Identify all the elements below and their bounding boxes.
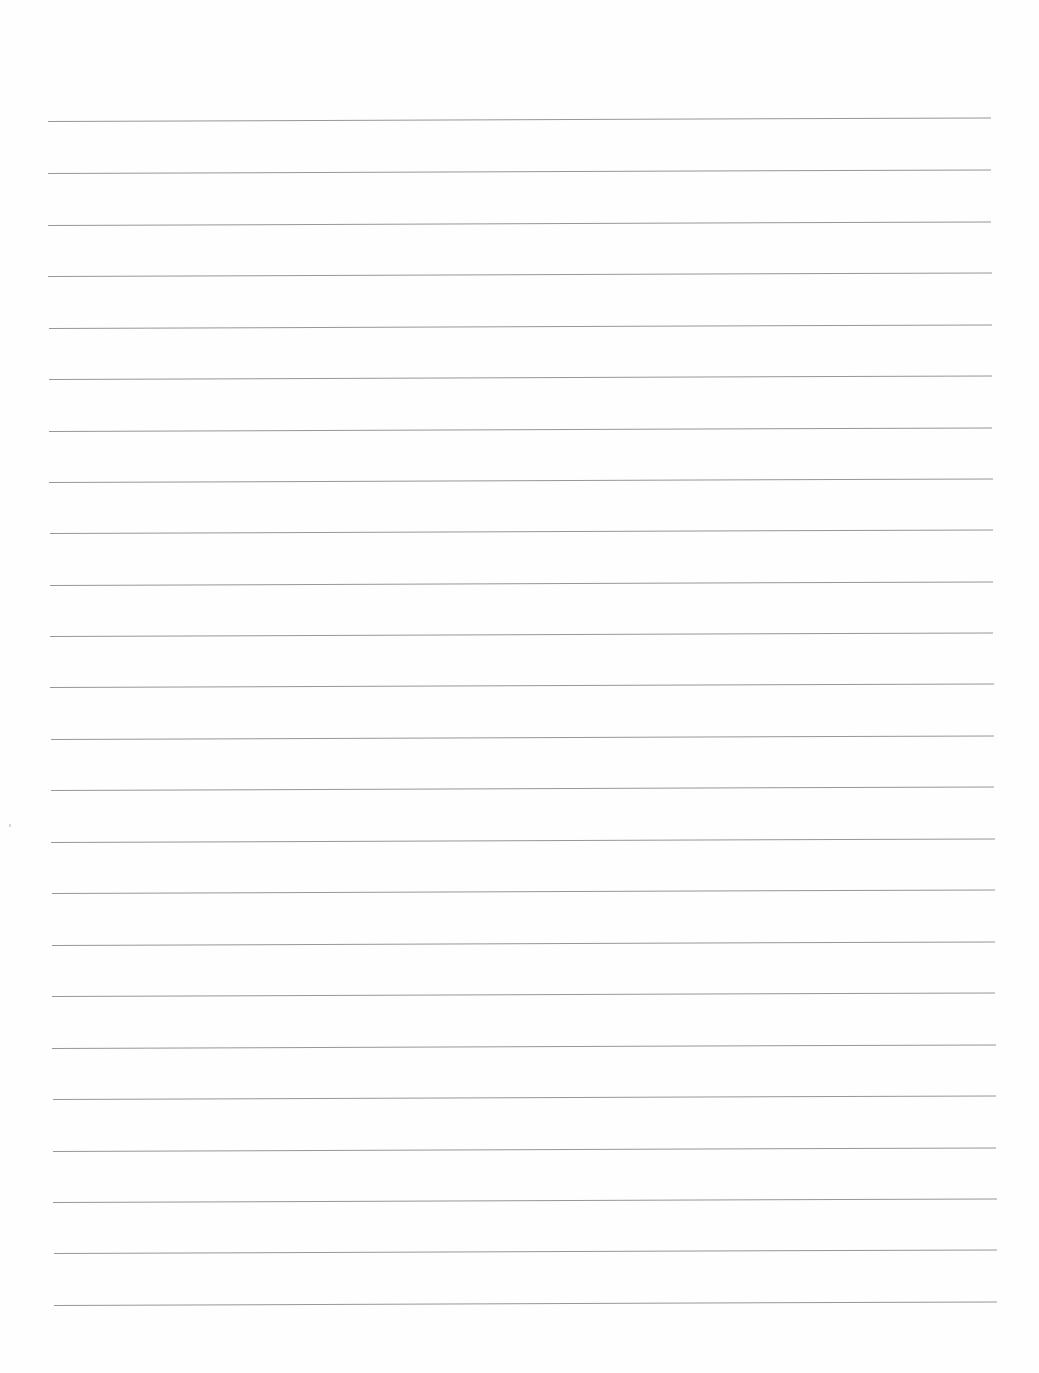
lined-paper-page — [0, 0, 1039, 1373]
ruled-line — [51, 735, 994, 741]
ruled-line — [53, 1095, 996, 1101]
scan-artifact — [9, 824, 11, 827]
ruled-line — [49, 427, 992, 433]
ruled-line — [48, 169, 991, 175]
ruled-line — [50, 632, 993, 638]
ruled-line — [52, 889, 995, 895]
ruled-line — [51, 786, 994, 792]
ruled-line — [51, 838, 995, 844]
ruled-line — [48, 221, 991, 227]
ruled-line — [52, 992, 995, 998]
ruled-line — [52, 941, 995, 947]
ruled-line — [53, 1147, 996, 1153]
ruled-line — [50, 683, 994, 689]
ruled-line — [54, 1301, 997, 1307]
ruled-line — [48, 117, 991, 123]
ruled-line — [52, 1044, 996, 1050]
ruled-line — [53, 1198, 997, 1204]
ruled-line — [49, 375, 992, 381]
ruled-line — [48, 272, 992, 278]
ruled-line — [49, 324, 992, 330]
ruled-line — [50, 529, 993, 535]
ruled-line — [54, 1249, 997, 1255]
ruled-line — [49, 478, 993, 484]
ruled-line — [50, 581, 993, 587]
